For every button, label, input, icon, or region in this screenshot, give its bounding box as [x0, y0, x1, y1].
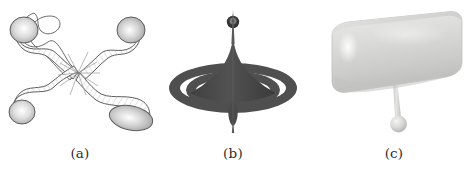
slab-highlight — [338, 31, 358, 63]
arm-lower-left-tip — [9, 100, 35, 124]
panel-a-illustration — [0, 0, 160, 145]
panel-c-illustration — [312, 0, 476, 145]
center-node — [77, 72, 79, 74]
panel-c-caption: (c) — [312, 143, 476, 163]
stem-ball — [390, 116, 407, 133]
cross-surface-shape — [9, 13, 155, 134]
slab-highlight-secondary — [368, 22, 448, 46]
arm-upper-left-tip — [10, 17, 38, 43]
figure-panel-c: (c) — [312, 0, 476, 173]
wedge-slab-shape — [332, 11, 462, 132]
figure-panel-b: (b) — [152, 0, 314, 173]
figure-root: (a) — [0, 0, 476, 173]
arm-upper-right-tip — [117, 17, 145, 43]
panel-a-caption: (a) — [0, 143, 160, 163]
panel-b-illustration — [152, 0, 314, 145]
panel-b-caption: (b) — [152, 143, 314, 163]
figure-panel-a: (a) — [0, 0, 160, 173]
cone-with-rings-shape — [152, 0, 314, 145]
